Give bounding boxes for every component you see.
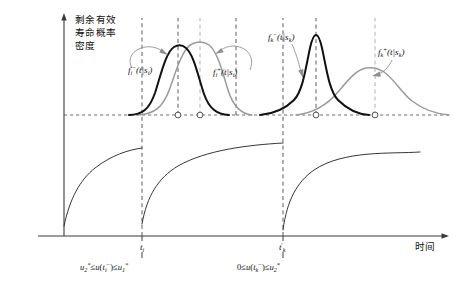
annotation-connectors-group (142, 252, 283, 258)
label-fk-minus-argend: ) (290, 32, 294, 42)
annotation-left: u2*≤u(ti−)≤u1* (80, 261, 128, 273)
marker-fi-minus-mean (175, 112, 181, 118)
label-fk-plus-arg: (t|s (387, 47, 399, 57)
y-axis-arrowhead (61, 13, 66, 21)
label-fi-minus-arg: (t|s (136, 65, 148, 75)
svg-text:fi+(t|si): fi+(t|si) (213, 66, 237, 78)
label-fi-plus-argend: ) (233, 67, 237, 77)
svg-text:fk+(t|sk): fk+(t|sk) (378, 46, 404, 58)
tick-ti-sub: i (143, 246, 145, 253)
leader-fk-minus (292, 44, 301, 72)
marker-fk-minus-mean (313, 112, 319, 118)
leader-arrow-fi-minus (159, 48, 168, 55)
label-fi-plus-arg: (t|s (221, 67, 233, 77)
degradation-curve-segment-2 (142, 143, 283, 224)
tick-label-tk: t'k (279, 241, 286, 254)
y-axis-label-group: 剩余有效 寿命概率 密度 (75, 14, 116, 51)
marker-fi-plus-mean (197, 112, 203, 118)
density-curve-fk-plus (296, 68, 449, 115)
degradation-curve-segment-3 (283, 152, 420, 230)
label-density-fi-minus: fi−(t|si) (128, 64, 152, 76)
label-density-fk-minus: fk−(t|sk) (268, 31, 294, 43)
svg-text:fi−(t|si): fi−(t|si) (128, 64, 152, 76)
degradation-curve-segment-1 (64, 148, 142, 226)
vertical-guides-group (142, 18, 375, 236)
svg-text:ti: ti (140, 242, 145, 253)
leader-arrow-fk-plus (372, 72, 381, 77)
baseline-markers-group (175, 112, 378, 118)
label-fk-minus-arg: (t|s (277, 32, 289, 42)
y-axis-label-line3: 密度 (75, 40, 96, 51)
tick-tk-sub: k (283, 246, 286, 253)
label-fk-plus-argend: ) (400, 47, 404, 57)
leader-lines-group (130, 44, 392, 78)
svg-text:fk−(t|sk): fk−(t|sk) (268, 31, 294, 43)
figure-canvas: 剩余有效 寿命概率 密度 时间 (0, 0, 471, 284)
density-curve-fi-minus (129, 45, 229, 115)
svg-text:0≤u(tk−)≤u2*: 0≤u(tk−)≤u2* (237, 261, 280, 273)
leader-arrow-fk-minus (298, 69, 303, 78)
x-ticks-group (142, 236, 283, 241)
marker-fk-plus-mean (372, 112, 378, 118)
annotation-right: 0≤u(tk−)≤u2* (237, 261, 280, 273)
y-axis-label-line1: 剩余有效 (75, 14, 116, 25)
label-density-fk-plus: fk+(t|sk) (378, 46, 404, 58)
x-axis-label: 时间 (415, 241, 436, 252)
density-curve-fi-plus (138, 42, 252, 115)
label-fi-minus-argend: ) (148, 65, 152, 75)
y-axis-label-line2: 寿命概率 (75, 27, 116, 38)
label-density-fi-plus: fi+(t|si) (213, 66, 237, 78)
tick-label-ti: ti (140, 242, 145, 253)
svg-text:u2*≤u(ti−)≤u1*: u2*≤u(ti−)≤u1* (80, 261, 128, 273)
x-axis-arrowhead (442, 233, 450, 238)
svg-text:t'k: t'k (279, 241, 286, 254)
